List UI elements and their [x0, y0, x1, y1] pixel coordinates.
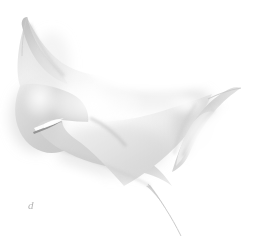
subfigure-label: d [28, 199, 34, 211]
surface-rendering [0, 0, 253, 251]
tail-gap-wash [100, 184, 152, 228]
highlight-left [24, 82, 56, 118]
highlight-right [168, 94, 204, 114]
lower-left-wash [10, 169, 110, 241]
upper-right-wash [80, 20, 240, 88]
figure-container: d [0, 0, 253, 251]
